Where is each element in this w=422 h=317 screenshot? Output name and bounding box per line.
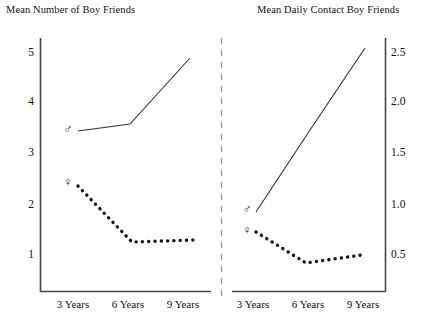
right-xtick-3-years: 3 Years (237, 298, 269, 310)
figure-two-panel-line-charts: Mean Number of Boy Friends Mean Daily Co… (0, 0, 422, 317)
right-female-symbol: ♀ (243, 224, 252, 236)
plot-canvas (0, 0, 422, 317)
left-xtick-9-years: 9 Years (167, 298, 199, 310)
left-ytick-2: 2 (20, 198, 34, 210)
left-xtick-3-years: 3 Years (57, 298, 89, 310)
right-male-line (256, 48, 365, 212)
left-ytick-4: 4 (20, 95, 34, 107)
right-ytick-1-0: 1.0 (391, 198, 417, 210)
right-ytick-2-5: 2.5 (391, 46, 417, 58)
left-female-symbol: ♀ (64, 176, 73, 188)
left-female-line (78, 186, 193, 242)
left-male-line (78, 58, 190, 131)
right-male-symbol: ♂ (243, 203, 252, 215)
right-ytick-0-5: 0.5 (391, 248, 417, 260)
right-ytick-1-5: 1.5 (391, 146, 417, 158)
left-ytick-1: 1 (20, 248, 34, 260)
left-male-symbol: ♂ (64, 123, 73, 135)
right-xtick-6-years: 6 Years (292, 298, 324, 310)
left-panel-axes (41, 38, 212, 292)
right-ytick-2-0: 2.0 (391, 95, 417, 107)
left-ytick-3: 3 (20, 146, 34, 158)
right-female-line (256, 232, 362, 263)
left-ytick-5: 5 (20, 46, 34, 58)
left-xtick-6-years: 6 Years (112, 298, 144, 310)
right-panel-axes (232, 38, 386, 292)
right-xtick-9-years: 9 Years (347, 298, 379, 310)
